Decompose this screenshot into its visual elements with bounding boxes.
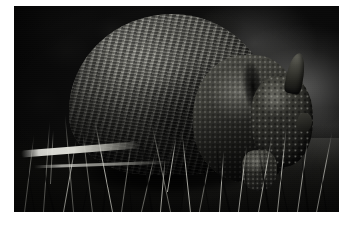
photograph [14, 6, 339, 212]
armadillo [14, 6, 339, 212]
image-canvas [0, 0, 353, 229]
